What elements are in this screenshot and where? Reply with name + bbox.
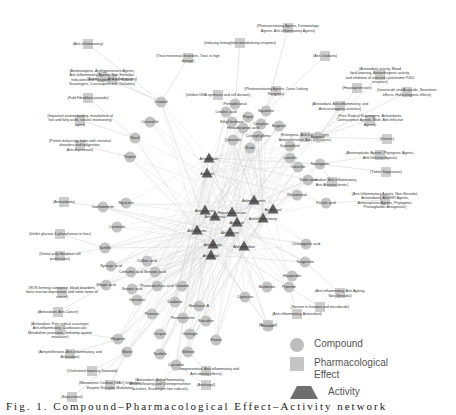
compound-node: Taxifolin <box>153 349 167 360</box>
node-label: Chrysin <box>154 332 167 336</box>
node-label: (Important protein binding, metabolism o… <box>47 114 112 118</box>
compound-node: Hesperidin <box>283 271 301 282</box>
node-label: Antiulcer <box>230 221 246 225</box>
effect-node: (Antioxidant activity, Bloodlipid-loweri… <box>346 67 415 84</box>
node-label: lipid-lowering, Antiandrogenic activity, <box>350 71 409 75</box>
node-label: Antifungal <box>265 208 282 212</box>
node-label: Analgesic <box>203 254 220 258</box>
legend: Compound Pharmacological Effect Activity <box>290 338 430 404</box>
node-label: Rutin <box>246 146 255 150</box>
node-label: Isorhamnetin <box>92 205 114 209</box>
node-label: Benzoic acid <box>144 270 166 274</box>
node-label: Enzyme Receptor Modulator) <box>87 386 134 390</box>
compound-node: Formononetin <box>171 313 194 324</box>
compound-node: Capsaicin <box>237 292 254 303</box>
node-label: Thymol <box>124 155 137 159</box>
node-label: Syringic acid <box>100 264 122 268</box>
compound-node: Silibinin <box>181 347 194 358</box>
compound-node: Phytol <box>243 112 254 123</box>
node-label: Antiproliferating and Chemopreventive <box>129 382 190 386</box>
node-label: (Inducing hemoglobin metabolizing enzyme… <box>204 41 276 45</box>
compound-node: Eugenol <box>272 121 286 132</box>
node-label: (Antifungal) <box>197 383 215 387</box>
node-label: Catechin <box>291 165 306 169</box>
node-label: (Antioxidant, Anti-inflammatory, and <box>312 102 368 106</box>
compound-node: Kaempferol <box>280 141 300 152</box>
node-label: Nerol <box>130 136 139 140</box>
node-label: Naringenin <box>311 162 329 166</box>
node-label: Coumarin <box>109 225 125 229</box>
node-label: Silibinin <box>181 350 194 354</box>
effect-node: (Fold Fibroblast peptoide) <box>68 93 109 103</box>
node-label: Pentadecanal <box>223 102 246 106</box>
node-label: (Expectorant) <box>61 395 83 399</box>
node-label: Antioxidant <box>200 157 220 161</box>
compound-node: Squalene <box>258 106 274 117</box>
node-label: Ferulic acid <box>316 201 335 205</box>
effect-node: (Inhibits DNA synthesis and cell divisio… <box>186 90 251 100</box>
node-label: Wogonin <box>111 337 126 341</box>
node-label: Biochanin A <box>189 304 210 308</box>
node-label: Baicalein <box>198 319 213 323</box>
node-label: Antibacterial <box>205 215 226 219</box>
node-label: (Dental pulp fibroblast cell <box>39 252 81 256</box>
node-label: (Inhibits DNA synthesis and cell divisio… <box>186 93 251 97</box>
node-label: Anti-Inflammatory Agents, Non-Steroidal, <box>69 73 134 77</box>
node-label: Phytol <box>243 115 254 119</box>
node-label: (Antimutagenic, Antihypertensive Agents, <box>69 69 134 73</box>
node-label: (Diuretic) <box>380 137 395 141</box>
effect-node: (Antifungal) <box>197 380 215 390</box>
effect-node: (Photosensitizing Agents, DermatologicAg… <box>257 23 320 33</box>
compound-node: Naringenin <box>311 159 329 170</box>
node-label: Antiparasitic <box>195 209 216 213</box>
node-label: Citronellol <box>142 120 159 124</box>
node-label: Caffeic acid <box>137 259 157 263</box>
node-label: Capsaicin <box>237 295 254 299</box>
node-label: Curcumin <box>168 363 184 367</box>
circle-icon <box>290 338 304 352</box>
node-label: disorders and indigestion, <box>60 143 101 147</box>
node-label: (Hepatoprotective) <box>342 86 372 90</box>
compound-node: Coumarin <box>109 222 125 233</box>
node-label: (Inhibit glucose-6-phosphatase in liver) <box>29 232 91 236</box>
node-label: Linalool <box>154 100 167 104</box>
node-label: Resveratrol <box>287 193 307 197</box>
compound-node: Myricetin <box>118 198 133 209</box>
node-label: (Seizure in humans and microbicide) <box>291 305 349 309</box>
node-label: (Chemopreventive, Anti-inflammatory and <box>173 367 239 371</box>
compound-node: Berberine <box>259 282 275 293</box>
node-label: Anti-Atherosclerotic) <box>316 183 348 187</box>
compound-node: Thymol <box>124 152 137 163</box>
compound-node: Baicalein <box>198 316 213 327</box>
node-label: Tangeretin <box>296 260 314 264</box>
compound-node: Puerarin <box>145 309 159 320</box>
node-label: Antioxidants, Anti-HIV Agents, <box>361 196 409 200</box>
node-label: Hepatoprotective <box>218 211 247 215</box>
effect-node: (ROS-forming substance, blood disorders,… <box>26 286 97 299</box>
node-label: (Free Radical Scavengers, Antioxidants, <box>338 114 402 118</box>
node-label: (Antioxidant activity, Blood <box>359 67 401 71</box>
node-label: (Anti-Inflammatory) <box>73 42 104 46</box>
node-label: Sinapic acid <box>122 287 142 291</box>
node-label: (Antiproliferative, Anti-inflammatory, a… <box>38 350 101 354</box>
legend-label: Pharmacological Effect <box>314 357 394 381</box>
node-label: (Photosensitizing Agents, Dermatologic <box>257 24 320 28</box>
compound-node: Wogonin <box>111 334 126 345</box>
node-label: (Photosensitizing Agents, Cross-Linking <box>244 87 307 91</box>
effect-node: (Anti-Inflammatory Agents, Non-Steroidal… <box>352 192 418 209</box>
effect-node: (Antioxidant, Anti-inflammatory, andAnti… <box>312 101 368 111</box>
compound-node: Morin <box>122 347 133 358</box>
node-label: Agents, Anti-Inflammatory Agents) <box>261 29 315 33</box>
legend-item-pharmacological-effect: Pharmacological Effect <box>290 357 430 381</box>
effect-node: (Inhibit glucose-6-phosphatase in liver) <box>29 229 91 239</box>
effect-node: (Important protein binding, metabolism o… <box>47 114 112 127</box>
node-label: effects, Hallucinogenic effects) <box>383 93 432 97</box>
node-label: Reagents) <box>268 92 285 96</box>
node-label: and inhibition of selected cytochrome P4… <box>346 76 415 80</box>
node-label: (Fold Fibroblast peptoide) <box>68 96 109 100</box>
effect-node: (Free Radical Scavengers, Antioxidants,C… <box>337 114 404 127</box>
node-label: Anti-depressant) <box>67 148 93 152</box>
node-label: Galangin <box>182 332 197 336</box>
compound-node: Rutin <box>245 143 256 154</box>
node-label: Morin <box>122 350 132 354</box>
